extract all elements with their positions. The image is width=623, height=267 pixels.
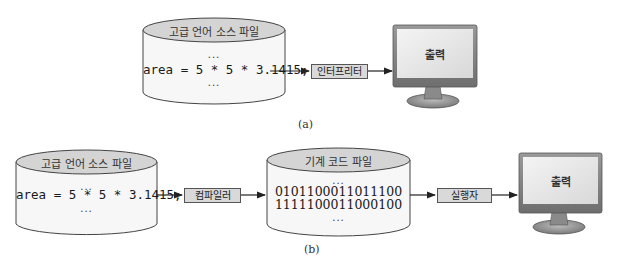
diagram-shapes [0, 0, 623, 267]
code-ellipsis-top-a: ... [143, 51, 285, 59]
source-code-line-a: area = 5 * 5 * 3.1415; [143, 63, 285, 76]
monitor-b [519, 153, 602, 234]
output-label-a: 출력 [397, 46, 473, 62]
monitor-a [393, 25, 477, 108]
caption-a: (a) [298, 118, 313, 131]
binary-ellipsis-bottom: ... [267, 214, 410, 222]
source-file-title-b: 고급 언어 소스 파일 [16, 155, 157, 171]
source-code-line-b: area = 5 * 5 * 3.1415; [16, 188, 157, 201]
caption-b: (b) [304, 243, 320, 256]
output-label-b: 출력 [523, 173, 598, 189]
source-file-title-a: 고급 언어 소스 파일 [143, 23, 285, 39]
executor-box: 실행자 [437, 188, 492, 203]
machine-file-title: 기계 코드 파일 [267, 153, 410, 169]
code-ellipsis-bottom-a: ... [143, 79, 285, 87]
compiler-box: 컴파일러 [184, 188, 241, 203]
interpreter-box: 인터프리터 [311, 64, 368, 79]
binary-line-2: 1111100011000100 [267, 198, 410, 211]
code-ellipsis-bottom-b: ... [16, 205, 157, 213]
